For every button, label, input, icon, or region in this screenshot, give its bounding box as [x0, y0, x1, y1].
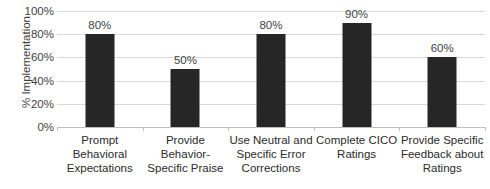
- plot-area: 80%50%80%90%60%: [57, 11, 485, 127]
- x-axis-tick: [485, 127, 486, 131]
- y-axis-tick-labels: 100%80%60%40%20%0%: [18, 0, 54, 189]
- x-axis-tick: [143, 127, 144, 131]
- bar[interactable]: [171, 69, 200, 127]
- bar-value-label: 60%: [431, 42, 454, 54]
- y-axis-tick-label: 20%: [18, 99, 54, 109]
- bar[interactable]: [256, 34, 285, 127]
- x-axis-category-label: Provide Behavior-Specific Praise: [143, 133, 229, 175]
- y-axis-tick-label: 40%: [18, 76, 54, 86]
- bar-series: 80%50%80%90%60%: [57, 11, 485, 127]
- bar-value-label: 80%: [259, 19, 282, 31]
- x-axis-category-label: Provide Specific Feedback about Ratings: [399, 133, 485, 175]
- x-axis-tick: [228, 127, 229, 131]
- bar[interactable]: [85, 34, 114, 127]
- bar-value-label: 90%: [345, 8, 368, 20]
- bar-chart: % Implementation 100%80%60%40%20%0% 80%5…: [0, 0, 490, 189]
- x-axis-category-labels: Prompt Behavioral ExpectationsProvide Be…: [57, 133, 485, 189]
- y-axis-tick-label: 0%: [18, 122, 54, 132]
- bar-cell: 80%: [228, 11, 314, 127]
- bar-cell: 80%: [57, 11, 143, 127]
- y-axis-tick-label: 60%: [18, 52, 54, 62]
- bar[interactable]: [428, 57, 457, 127]
- x-axis-ticks: [57, 127, 485, 132]
- bar-cell: 60%: [399, 11, 485, 127]
- x-axis-category-label: Complete CICO Ratings: [314, 133, 400, 161]
- x-axis-tick: [57, 127, 58, 131]
- x-axis-tick: [399, 127, 400, 131]
- x-axis-tick: [314, 127, 315, 131]
- bar-cell: 90%: [314, 11, 400, 127]
- y-axis-tick-label: 100%: [18, 6, 54, 16]
- y-axis-tick-label: 80%: [18, 29, 54, 39]
- bar-value-label: 80%: [88, 19, 111, 31]
- x-axis-category-label: Use Neutral and Specific Error Correctio…: [228, 133, 314, 175]
- bar-value-label: 50%: [174, 54, 197, 66]
- bar[interactable]: [342, 23, 371, 127]
- bar-cell: 50%: [143, 11, 229, 127]
- x-axis-category-label: Prompt Behavioral Expectations: [57, 133, 143, 175]
